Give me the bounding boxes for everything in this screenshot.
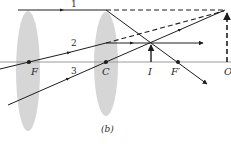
ray-3 xyxy=(8,10,225,105)
dashed-ray-2-extension xyxy=(106,11,224,43)
center-point-C xyxy=(104,60,108,64)
figure-caption: (b) xyxy=(101,124,114,134)
ray-2-incident xyxy=(0,43,106,69)
label-C: C xyxy=(102,66,110,77)
ray-label-3: 3 xyxy=(71,66,77,76)
ray-1-refracted xyxy=(106,10,207,84)
label-O: O xyxy=(224,66,231,77)
ray-label-1: 1 xyxy=(71,0,77,9)
label-I: I xyxy=(147,66,153,77)
label-F: F xyxy=(30,66,39,77)
focal-point-F-prime xyxy=(176,60,180,64)
ray-diagram: 1 2 3 F C I F′ O (b) xyxy=(0,0,231,144)
ray-label-2: 2 xyxy=(71,38,77,48)
focal-point-F xyxy=(27,60,31,64)
label-F-prime: F′ xyxy=(170,66,181,77)
